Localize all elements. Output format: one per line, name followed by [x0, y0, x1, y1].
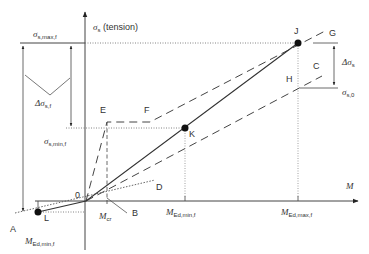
label-a: A	[10, 225, 16, 234]
label-j: J	[294, 27, 299, 36]
label-d: D	[156, 183, 163, 192]
sigma-0-label: σs,0	[342, 88, 354, 98]
point-l	[35, 209, 42, 216]
delta-sigma-sub: s	[352, 62, 355, 68]
m-ed-min-neg-main: M	[25, 236, 33, 246]
label-l: L	[44, 214, 49, 223]
label-b: B	[132, 209, 138, 218]
delta-sigma-f-main: Δσ	[35, 98, 45, 108]
x-axis-label: M	[346, 182, 354, 191]
m-ed-min-neg-label: MEd,min,f	[25, 237, 55, 247]
line-0-E-F-G	[86, 30, 327, 201]
label-e: E	[100, 106, 106, 115]
label-k: K	[189, 130, 195, 139]
sigma-max-sub: s,max,f	[37, 34, 56, 40]
m-cr-main: M	[99, 211, 107, 221]
y-axis-suffix: (tension)	[100, 22, 138, 32]
delta-sigma-f-sub: s,f	[45, 103, 51, 109]
line-L-0-K-J	[38, 43, 298, 212]
label-h: H	[286, 75, 293, 84]
y-axis-label: σs (tension)	[93, 23, 138, 33]
m-ed-min-main: M	[166, 207, 174, 217]
b-pointer	[107, 198, 127, 213]
m-ed-max-main: M	[281, 207, 289, 217]
point-j	[295, 40, 302, 47]
label-g: G	[329, 29, 336, 38]
m-ed-max-label: MEd,max,f	[281, 208, 312, 218]
m-ed-min-label: MEd,min,f	[166, 208, 196, 218]
m-ed-max-sub: Ed,max,f	[289, 212, 313, 218]
delta-sigma-f-bracket	[25, 75, 70, 95]
line-0-C	[86, 76, 322, 201]
stress-moment-diagram: σs (tension) M 0 A B C D E F G H J K L σ…	[0, 0, 369, 254]
sigma-min-sub: s,min,f	[48, 141, 66, 147]
point-k	[182, 125, 189, 132]
label-f: F	[144, 106, 150, 115]
delta-sigma-main: Δσ	[342, 57, 352, 67]
sigma-0-sub: s,0	[346, 92, 354, 98]
origin-label: 0	[75, 191, 80, 200]
m-ed-min-neg-sub: Ed,min,f	[33, 241, 55, 247]
label-c: C	[313, 62, 320, 71]
sigma-max-label: σs,max,f	[33, 30, 57, 40]
m-cr-sub: cr	[107, 216, 112, 222]
delta-sigma-label: Δσs	[342, 58, 355, 68]
m-cr-label: Mcr	[99, 212, 112, 222]
delta-sigma-f-label: Δσs,f	[35, 99, 51, 109]
m-ed-min-sub: Ed,min,f	[174, 212, 196, 218]
sigma-min-label: σs,min,f	[44, 137, 66, 147]
